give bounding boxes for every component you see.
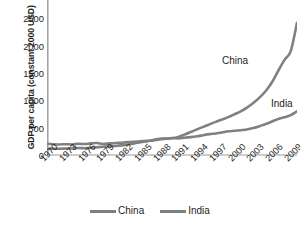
- legend-swatch-china: [90, 210, 116, 213]
- plot-svg: [47, 0, 297, 156]
- x-axis-tick-labels: 1970197319761979198219851988199119941997…: [47, 157, 297, 197]
- y-axis-tick-labels: 050010001500200025003000: [16, 0, 44, 227]
- plot-area: [47, 0, 297, 156]
- y-axis-tick-label: 1500: [16, 69, 44, 78]
- y-axis-tick-label: 1000: [16, 96, 44, 105]
- chart-legend: China India: [0, 203, 300, 219]
- legend-label-china: China: [118, 206, 144, 216]
- series-line-china: [47, 23, 297, 149]
- legend-item-china: China: [90, 206, 144, 216]
- series-annotation-china: China: [222, 56, 248, 66]
- y-axis-tick-label: 2500: [16, 14, 44, 23]
- series-annotation-india: India: [271, 99, 293, 109]
- gdp-per-capita-line-chart: GDP per capita (constant 2000 USD) 05001…: [0, 0, 300, 227]
- y-axis-tick-label: 2000: [16, 42, 44, 51]
- legend-swatch-india: [160, 210, 186, 213]
- y-axis-tick-label: 500: [16, 124, 44, 133]
- legend-label-india: India: [188, 206, 210, 216]
- legend-item-india: India: [160, 206, 210, 216]
